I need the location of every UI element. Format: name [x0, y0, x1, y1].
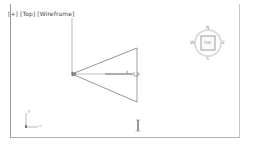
- axis-x-label: x: [39, 124, 41, 128]
- gizmo-axis-label: x: [126, 69, 129, 74]
- axis-y-label: y: [28, 109, 30, 113]
- viewcube-south[interactable]: S: [206, 56, 209, 61]
- bottom-label: camera: [136, 116, 140, 136]
- axis-tripod: [25, 113, 38, 128]
- viewcube-east[interactable]: E: [222, 40, 225, 45]
- viewcube-face-label[interactable]: TOP: [204, 41, 211, 45]
- viewcube-west[interactable]: W: [190, 40, 194, 45]
- scene-canvas[interactable]: x: [0, 0, 254, 154]
- viewcube-north[interactable]: N: [206, 25, 209, 30]
- camera-frustum[interactable]: [72, 18, 137, 102]
